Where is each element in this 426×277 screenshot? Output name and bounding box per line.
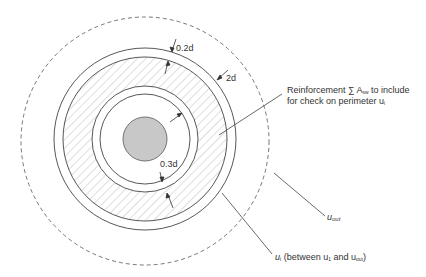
reinforcement-label-line1: Reinforcement ∑ Asw to include [287,85,410,95]
label-2d: 2d [226,73,236,83]
u-i-label: ui (between u1 and uout) [275,252,366,262]
column [123,117,167,161]
reinforcement-label-line2: for check on perimeter ui [287,96,385,106]
label-0-3d: 0.3d [160,159,178,169]
reinforcement-zone-hatch [0,0,426,277]
label-0-2d: 0.2d [176,43,194,53]
punching-shear-diagram: 0.2d 2d 0.3d Reinforcement ∑ Asw to incl… [0,0,426,277]
